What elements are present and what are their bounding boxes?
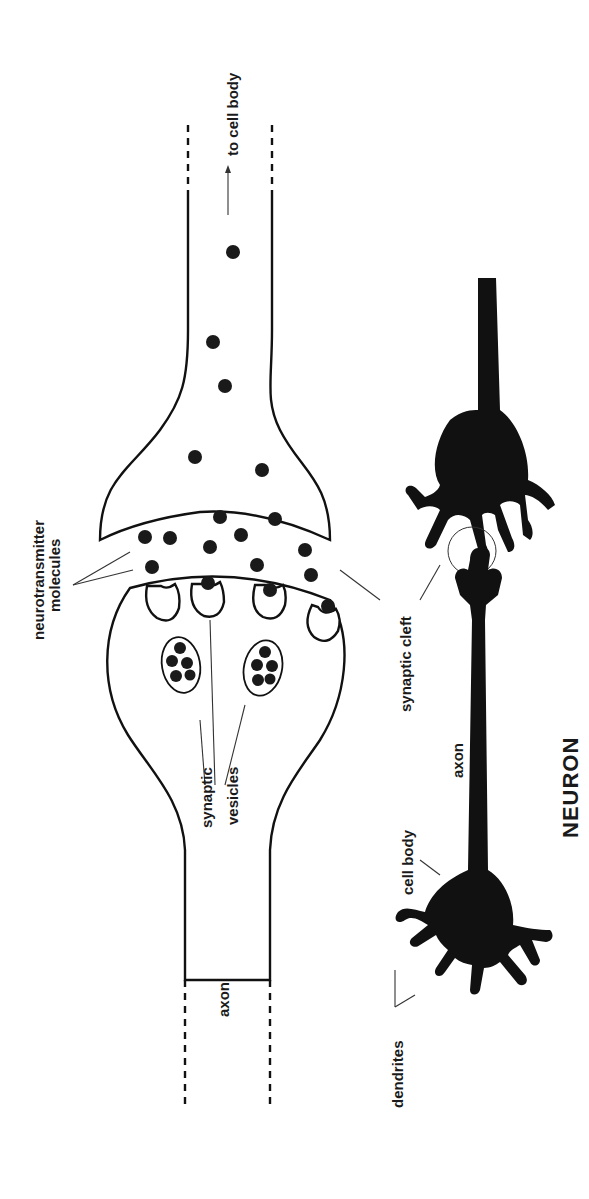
label-synaptic: synaptic: [198, 767, 215, 828]
neuron-diagram: to cell body neurotransmitter molecules …: [0, 0, 589, 1199]
receiving-neuron: [406, 278, 555, 557]
label-cell-body: cell body: [399, 829, 416, 895]
label-axon-right: axon: [449, 743, 466, 778]
label-to-cell-body: to cell body: [224, 72, 241, 156]
presynaptic-terminal: [107, 576, 344, 1110]
label-dendrites: dendrites: [389, 1040, 406, 1108]
label-neurotransmitter: neurotransmitter: [30, 520, 47, 640]
diagram-title: NEURON: [558, 737, 583, 838]
label-synaptic-cleft: synaptic cleft: [397, 616, 414, 712]
postsynaptic-process: [100, 125, 330, 540]
label-axon-left: axon: [215, 982, 232, 1017]
sending-neuron: [396, 546, 553, 994]
label-molecules: molecules: [46, 539, 63, 612]
label-vesicles: vesicles: [224, 767, 241, 825]
